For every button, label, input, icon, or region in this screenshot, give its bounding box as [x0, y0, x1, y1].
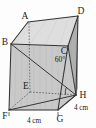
- dimension-label-fg: 4 cm: [27, 117, 42, 125]
- vertex-label-D: D: [78, 6, 85, 16]
- dimension-label-gh: 4 cm: [74, 104, 89, 112]
- angle-label-60: 60°: [55, 55, 66, 64]
- dimension-ticks: [9, 112, 58, 116]
- vertex-label-E: E: [23, 81, 29, 91]
- geometry-figure: A D B C E H F G 60° 4 cm 4 cm: [0, 0, 96, 128]
- prism-diagram: A D B C E H F G 60° 4 cm 4 cm: [0, 0, 96, 128]
- vertex-label-A: A: [22, 11, 29, 21]
- vertex-label-B: B: [2, 37, 8, 47]
- vertex-label-H: H: [80, 90, 87, 100]
- vertex-label-G: G: [57, 114, 64, 124]
- vertex-label-F: F: [2, 111, 7, 121]
